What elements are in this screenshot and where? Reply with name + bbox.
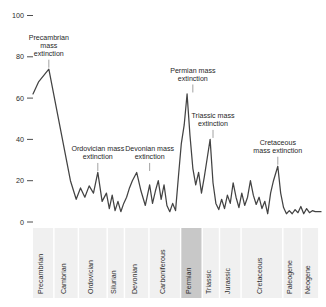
annotation-label: mass extinction: [253, 147, 302, 155]
y-tick-label: 100: [12, 11, 24, 20]
chart-canvas: 020406080100 PrecambrianCambrianOrdovici…: [0, 0, 326, 307]
period-label-cretaceous: Cretaceous: [256, 257, 264, 294]
period-label-triassic: Triassic: [205, 269, 213, 294]
annotation-label: extinction: [178, 75, 208, 83]
period-label-devonian: Devonian: [131, 264, 139, 294]
period-label-precambrian: Precambrian: [37, 254, 45, 294]
annotation-label: Triassic mass: [191, 112, 235, 120]
annotation-label: Precambrian: [29, 34, 69, 42]
period-label-jurassic: Jurassic: [224, 268, 232, 294]
y-tick-label: 0: [20, 218, 24, 227]
period-label-cambrian: Cambrian: [60, 263, 68, 294]
annotation-label: extinction: [198, 120, 228, 128]
y-tick-label: 20: [16, 176, 24, 185]
annotation-label: extinction: [135, 153, 165, 161]
period-label-neogene: Neogene: [304, 265, 312, 294]
period-label-paleogene: Paleogene: [286, 260, 294, 294]
annotation-label: extinction: [34, 50, 64, 58]
period-label-permian: Permian: [185, 268, 193, 294]
annotation-label: Ordovician mass: [71, 145, 124, 153]
annotation-label: extinction: [83, 153, 113, 161]
annotation-label: mass: [40, 42, 57, 50]
y-tick-label: 40: [16, 135, 24, 144]
y-tick-label: 60: [16, 94, 24, 103]
period-label-silurian: Silurian: [110, 270, 118, 294]
y-tick-label: 80: [16, 52, 24, 61]
period-label-carboniferous: Carboniferous: [159, 249, 167, 294]
period-label-ordovician: Ordovician: [87, 260, 95, 294]
period-band-group: [33, 228, 318, 298]
annotation-label: Permian mass: [170, 67, 216, 75]
annotation-label: Cretaceous: [260, 139, 297, 147]
annotation-label: Devonian mass: [125, 145, 174, 153]
extinction-chart: 020406080100 PrecambrianCambrianOrdovici…: [0, 0, 326, 307]
